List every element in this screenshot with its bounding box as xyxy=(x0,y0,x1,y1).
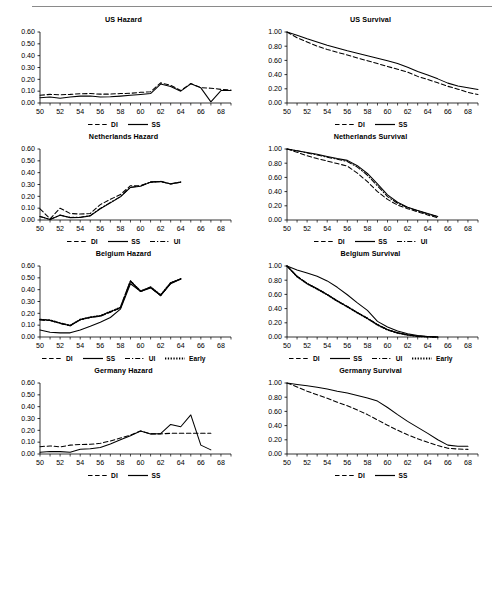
legend-label: DI xyxy=(91,238,98,245)
plot-area: 0.000.100.200.300.400.500.60505254565860… xyxy=(0,377,247,469)
x-tick-label: 60 xyxy=(137,225,145,233)
x-tick-label: 52 xyxy=(56,108,64,116)
y-tick-label: 0.40 xyxy=(268,422,282,430)
legend-label: SS xyxy=(353,355,362,362)
y-tick-label: 0.20 xyxy=(268,202,282,210)
chart-title: US Survival xyxy=(247,14,494,26)
y-tick-label: 0.50 xyxy=(21,40,35,48)
chart-legend: DISS xyxy=(247,469,494,482)
legend-item-ss[interactable]: SS xyxy=(329,355,363,362)
legend-label: DI xyxy=(111,472,118,479)
legend-label: SS xyxy=(131,238,140,245)
legend-item-di[interactable]: DI xyxy=(334,472,365,479)
x-tick-label: 68 xyxy=(464,459,472,467)
chart-title: Netherlands Hazard xyxy=(0,131,247,143)
legend-swatch-solid xyxy=(329,355,351,362)
legend-item-early[interactable]: Early xyxy=(411,355,452,362)
legend-swatch-solid xyxy=(127,121,149,128)
x-tick-label: 64 xyxy=(177,108,185,116)
series-line-di xyxy=(287,383,468,449)
x-tick-label: 66 xyxy=(444,225,452,233)
y-tick-label: 0.40 xyxy=(21,403,35,411)
x-tick-label: 68 xyxy=(217,459,225,467)
x-tick-label: 60 xyxy=(137,342,145,350)
legend-swatch-dashed xyxy=(334,121,356,128)
y-tick-label: 0.00 xyxy=(268,216,282,224)
x-tick-label: 58 xyxy=(116,459,124,467)
y-tick-label: 0.20 xyxy=(21,76,35,84)
y-tick-label: 0.30 xyxy=(21,64,35,72)
y-tick-label: 0.30 xyxy=(21,298,35,306)
y-tick-label: 0.00 xyxy=(21,333,35,341)
series-line-early xyxy=(287,266,438,337)
y-tick-label: 0.00 xyxy=(268,333,282,341)
legend-item-ss[interactable]: SS xyxy=(374,121,408,128)
legend-item-ss[interactable]: SS xyxy=(127,472,161,479)
legend-swatch-dash-dot xyxy=(371,355,393,362)
chart-panel: Germany Hazard0.000.100.200.300.400.500.… xyxy=(0,365,247,482)
legend-swatch-dash-dot xyxy=(124,355,146,362)
chart-title: Germany Survival xyxy=(247,365,494,377)
y-tick-label: 0.40 xyxy=(268,71,282,79)
x-tick-label: 58 xyxy=(116,342,124,350)
plot-area: 0.000.200.400.600.801.005052545658606264… xyxy=(247,26,494,118)
x-tick-label: 62 xyxy=(157,225,165,233)
legend-item-di[interactable]: DI xyxy=(87,472,118,479)
legend-item-ui[interactable]: UI xyxy=(149,238,180,245)
legend-item-di[interactable]: DI xyxy=(288,355,319,362)
x-tick-label: 58 xyxy=(116,225,124,233)
legend-item-di[interactable]: DI xyxy=(313,238,344,245)
legend-label: SS xyxy=(378,238,387,245)
legend-item-ui[interactable]: UI xyxy=(371,355,402,362)
x-tick-label: 50 xyxy=(283,342,291,350)
y-tick-label: 0.40 xyxy=(268,305,282,313)
series-line-ss xyxy=(287,266,438,337)
x-tick-label: 54 xyxy=(323,459,331,467)
x-tick-label: 52 xyxy=(56,225,64,233)
legend-label: DI xyxy=(358,472,365,479)
legend-item-ss[interactable]: SS xyxy=(374,472,408,479)
legend-item-di[interactable]: DI xyxy=(87,121,118,128)
legend-swatch-dashed xyxy=(334,472,356,479)
x-tick-label: 64 xyxy=(424,342,432,350)
legend-item-early[interactable]: Early xyxy=(164,355,205,362)
legend-item-ui[interactable]: UI xyxy=(396,238,427,245)
legend-item-ui[interactable]: UI xyxy=(124,355,155,362)
x-tick-label: 50 xyxy=(283,225,291,233)
legend-label: DI xyxy=(338,238,345,245)
x-tick-label: 66 xyxy=(197,459,205,467)
chart-panel: Germany Survival0.000.200.400.600.801.00… xyxy=(247,365,494,482)
y-tick-label: 0.00 xyxy=(21,216,35,224)
legend-label: DI xyxy=(313,355,320,362)
x-tick-label: 52 xyxy=(56,342,64,350)
x-tick-label: 62 xyxy=(404,342,412,350)
x-tick-label: 50 xyxy=(283,459,291,467)
legend-item-ss[interactable]: SS xyxy=(82,355,116,362)
legend-label: UI xyxy=(174,238,181,245)
legend-label: UI xyxy=(421,238,428,245)
legend-label: UI xyxy=(396,355,403,362)
y-tick-label: 0.80 xyxy=(268,394,282,402)
y-tick-label: 0.50 xyxy=(21,391,35,399)
series-line-di xyxy=(287,266,438,337)
legend-label: DI xyxy=(358,121,365,128)
legend-item-ss[interactable]: SS xyxy=(127,121,161,128)
y-tick-label: 0.20 xyxy=(268,85,282,93)
y-tick-label: 0.40 xyxy=(268,188,282,196)
panel-row: Netherlands Hazard0.000.100.200.300.400.… xyxy=(0,131,494,248)
legend-item-di[interactable]: DI xyxy=(66,238,97,245)
legend-swatch-solid xyxy=(107,238,129,245)
y-tick-label: 0.80 xyxy=(268,277,282,285)
x-tick-label: 56 xyxy=(96,108,104,116)
x-tick-label: 64 xyxy=(177,459,185,467)
chart-title: Belgium Survival xyxy=(247,248,494,260)
x-tick-label: 56 xyxy=(96,342,104,350)
y-tick-label: 1.00 xyxy=(268,145,282,153)
legend-item-ss[interactable]: SS xyxy=(107,238,141,245)
legend-item-di[interactable]: DI xyxy=(41,355,72,362)
legend-item-di[interactable]: DI xyxy=(334,121,365,128)
legend-item-ss[interactable]: SS xyxy=(354,238,388,245)
panel-row: US Hazard0.000.100.200.300.400.500.60505… xyxy=(0,14,494,131)
chart-panel: US Survival0.000.200.400.600.801.0050525… xyxy=(247,14,494,131)
x-tick-label: 62 xyxy=(157,342,165,350)
